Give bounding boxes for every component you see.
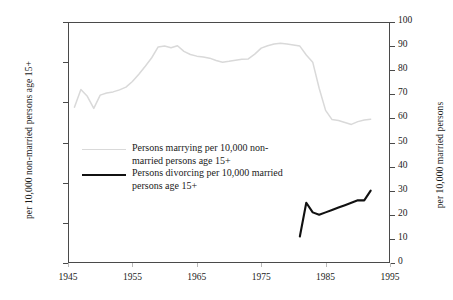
legend-item-divorcing: Persons divorcing per 10,000 married per… — [82, 167, 297, 192]
x-axis-tickmark — [261, 263, 262, 267]
legend-label-marrying-line2: married persons age 15+ — [132, 155, 297, 168]
chart-legend: Persons marrying per 10,000 non- married… — [82, 142, 297, 192]
series-line-marrying — [74, 43, 370, 124]
x-axis-tickmark — [132, 263, 133, 267]
x-axis-tickmark — [197, 263, 198, 267]
x-axis-tickmark — [326, 263, 327, 267]
x-axis-tickmark — [390, 263, 391, 267]
legend-swatch-divorcing-icon — [82, 174, 126, 176]
legend-label-marrying-line1: Persons marrying per 10,000 non- — [132, 142, 297, 155]
legend-label-divorcing-line2: persons age 15+ — [132, 180, 297, 193]
legend-label-divorcing-line1: Persons divorcing per 10,000 married — [132, 167, 297, 180]
legend-swatch-marrying-icon — [82, 149, 126, 150]
x-axis-tickmark — [68, 263, 69, 267]
series-line-divorcing — [300, 191, 371, 237]
legend-item-marrying: Persons marrying per 10,000 non- married… — [82, 142, 297, 167]
chart-figure: per 10,000 non-married persons age 15+ p… — [0, 0, 453, 300]
